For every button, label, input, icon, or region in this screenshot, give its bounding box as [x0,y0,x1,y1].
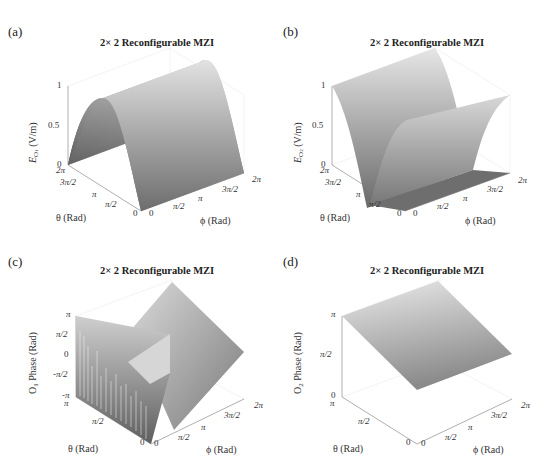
y-axis-label: θ (Rad) [320,212,350,223]
theta-tick: 0 [406,437,411,447]
z-tick: π/2 [320,349,332,359]
theta-tick: π/2 [92,416,104,426]
surface-plot-a [0,0,275,235]
x-axis-label: ϕ (Rad) [200,215,231,226]
theta-tick: 0 [397,208,402,218]
panel-a: (a) 2× 2 Reconfigurable MZI 1 0.5 0 EO1 … [0,0,275,235]
z-axis-label: O2 Phase (Rad) [292,332,305,394]
phi-tick: 3π/2 [222,184,238,194]
z-tick: π/2 [56,329,68,339]
chart-title: 2× 2 Reconfigurable MZI [370,265,484,276]
z-tick: π [66,309,71,319]
phi-tick: 0 [421,438,426,448]
panel-d: (d) 2× 2 Reconfigurable MZI π π/2 0 O2 P… [275,236,550,471]
panel-label: (b) [283,24,298,40]
phi-tick: 2π [254,400,263,410]
z-tick: π [331,309,336,319]
y-axis-label: θ (Rad) [68,443,98,454]
phi-tick: π [201,422,206,432]
phi-tick: 3π/2 [487,184,503,194]
x-axis-label: ϕ (Rad) [465,215,496,226]
phi-tick: π [468,422,473,432]
chart-title: 2× 2 Reconfigurable MZI [100,37,214,48]
panel-c: (c) 2× 2 Reconfigurable MZI π π/2 0 -π/2… [0,236,275,471]
phi-tick: 0 [154,438,159,448]
theta-tick: π/2 [369,199,381,209]
surface-plot-b [275,0,550,235]
z-tick: 1 [57,80,62,90]
theta-tick: π/2 [358,416,370,426]
phi-tick: 2π [518,175,527,185]
panel-label: (a) [8,24,22,40]
theta-tick: π [330,398,335,408]
theta-tick: 3π/2 [60,177,76,187]
theta-tick: π [356,189,361,199]
theta-tick: π [92,189,97,199]
phi-tick: π/2 [178,432,190,442]
y-axis-label: θ (Rad) [333,443,363,454]
theta-tick: 0 [133,208,138,218]
phi-tick: π/2 [437,201,449,211]
phi-tick: 2π [252,174,261,184]
phi-tick: π [198,193,203,203]
phi-tick: π/2 [173,201,185,211]
phi-tick: 2π [521,400,530,410]
z-tick: 0.5 [312,120,323,130]
panel-label: (c) [8,254,22,270]
theta-tick: π [64,398,69,408]
theta-tick: 2π [320,165,329,175]
phi-tick: 0 [149,208,154,218]
panel-label: (d) [283,254,298,270]
z-tick: -π/2 [53,369,68,379]
chart-title: 2× 2 Reconfigurable MZI [100,265,214,276]
x-axis-label: ϕ (Rad) [473,444,504,455]
z-tick: 0 [64,349,69,359]
z-tick: 1 [321,80,326,90]
phi-tick: π/2 [445,432,457,442]
phi-tick: π [463,193,468,203]
y-axis-label: θ (Rad) [56,212,86,223]
z-tick: 0.5 [48,120,59,130]
theta-tick: 2π [56,165,65,175]
theta-tick: 0 [140,437,145,447]
theta-tick: π/2 [105,199,117,209]
x-axis-label: ϕ (Rad) [206,444,237,455]
chart-title: 2× 2 Reconfigurable MZI [370,37,484,48]
theta-tick: 3π/2 [325,177,341,187]
phi-tick: 3π/2 [491,410,507,420]
panel-b: (b) 2× 2 Reconfigurable MZI 1 0.5 0 EO2 … [275,0,550,235]
z-axis-label: EO1 (V/m) [27,122,40,163]
z-axis-label: O1 Phase (Rad) [27,332,40,394]
phi-tick: 3π/2 [224,410,240,420]
phi-tick: 0 [413,208,418,218]
z-axis-label: EO2 (V/m) [292,122,305,163]
